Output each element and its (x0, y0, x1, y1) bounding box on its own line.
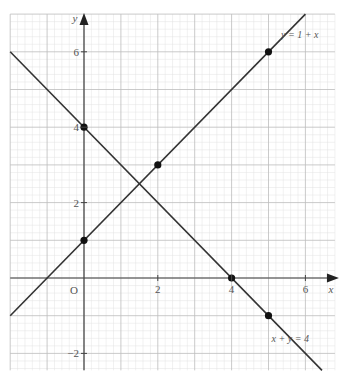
data-point (265, 48, 272, 55)
line-label-y-equals-1-plus-x: y = 1 + x (280, 29, 319, 40)
y-tick-label: 2 (74, 197, 80, 209)
plotted-lines (10, 14, 322, 370)
x-tick-label: 2 (155, 283, 161, 295)
y-axis-label: y (72, 12, 78, 24)
labels: x y O y = 1 + x x + y = 4 (70, 12, 333, 344)
graph-figure: x y O y = 1 + x x + y = 4 246−2246 (0, 0, 345, 379)
y-tick-label: 6 (74, 46, 80, 58)
plotted-points (80, 48, 272, 319)
x-axis-label: x (327, 283, 333, 295)
data-point (265, 312, 272, 319)
y-tick-label: −2 (67, 347, 79, 359)
line-x-plus-y-equals-4 (10, 52, 322, 371)
data-point (154, 161, 161, 168)
x-tick-label: 4 (229, 283, 235, 295)
origin-label: O (70, 284, 78, 296)
data-point (80, 237, 87, 244)
x-axis-arrow-icon (327, 274, 339, 283)
line-label-x-plus-y-equals-4: x + y = 4 (271, 333, 309, 344)
y-tick-label: 4 (74, 121, 80, 133)
x-tick-label: 6 (303, 283, 309, 295)
y-axis-arrow-icon (80, 13, 89, 25)
minor-grid (10, 14, 335, 370)
